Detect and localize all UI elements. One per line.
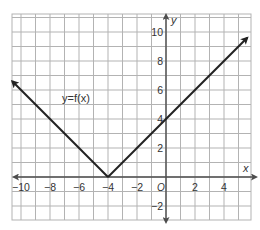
graph-right-branch (108, 38, 247, 177)
y-axis-label: y (170, 14, 178, 26)
y-tick-label: 6 (157, 84, 163, 96)
x-tick-label: −2 (131, 181, 143, 193)
y-tick-label: 8 (157, 55, 163, 67)
origin-label: O (157, 182, 165, 193)
x-tick-label: −8 (44, 181, 56, 193)
function-graph (12, 38, 247, 177)
y-tick-label: 2 (157, 142, 163, 154)
x-tick-label: −10 (12, 181, 30, 193)
x-tick-label: 2 (192, 181, 198, 193)
x-axis-label: x (242, 162, 249, 174)
coordinate-plane: −10−8−6−4−224108642−2 y=f(x) x y O (0, 0, 260, 230)
x-tick-label: 4 (221, 181, 227, 193)
x-tick-label: −6 (73, 181, 85, 193)
y-tick-label: 10 (151, 26, 163, 38)
y-tick-label: −2 (151, 200, 163, 212)
x-tick-label: −4 (102, 181, 114, 193)
function-label: y=f(x) (62, 92, 90, 104)
